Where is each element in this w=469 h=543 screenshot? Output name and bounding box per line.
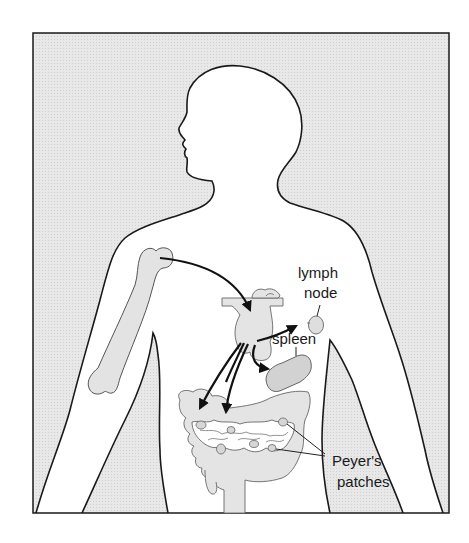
peyers-label-line1: Peyer's xyxy=(332,452,382,469)
lymph-label-line2: node xyxy=(304,284,337,301)
peyers-label-line2: patches xyxy=(337,473,390,490)
lymph-label-line1: lymph xyxy=(298,264,338,281)
lymphoid-organs-diagram: lymph node spleen Peyer's patches xyxy=(0,0,469,543)
spleen-label: spleen xyxy=(272,330,316,347)
